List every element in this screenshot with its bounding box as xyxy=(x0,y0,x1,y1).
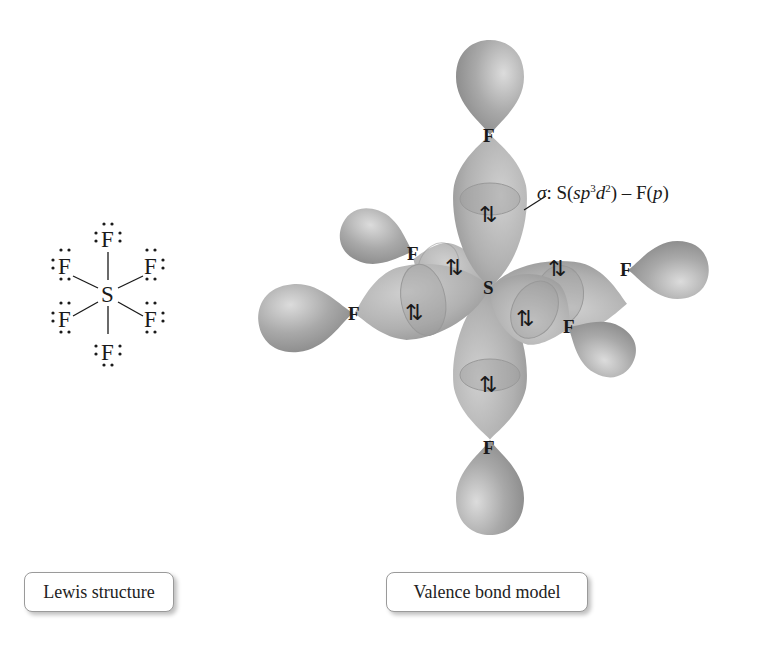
lewis-fluorine-lower-right: F xyxy=(144,307,157,332)
lewis-fluorine-lower-left: F xyxy=(58,307,71,332)
electron-pair-bottom: ⇅ xyxy=(479,372,497,397)
lewis-structure: S F F F F F F xyxy=(40,210,180,370)
valence-bond-caption: Valence bond model xyxy=(386,572,588,612)
vb-fluorine-top: F xyxy=(483,125,495,146)
f-lone-lobe-top xyxy=(456,40,524,135)
f-lone-lobe-left xyxy=(255,279,356,355)
valence-bond-model: ⇅ ⇅ ⇅ ⇅ ⇅ ⇅ S F F F F F F xyxy=(250,20,750,560)
f-lone-lobe-right xyxy=(628,241,709,299)
lewis-fluorine-bottom: F xyxy=(101,340,114,365)
sigma-bond-annotation: σ: S(sp3d2) – F(p) xyxy=(537,182,669,204)
vb-fluorine-upper-left: F xyxy=(407,243,419,264)
lewis-fluorine-top: F xyxy=(101,227,114,252)
vb-fluorine-right: F xyxy=(620,259,632,280)
valence-bond-drawing: ⇅ ⇅ ⇅ ⇅ ⇅ ⇅ S F F F F F F xyxy=(250,20,750,560)
lewis-fluorine-upper-left: F xyxy=(58,254,71,279)
vb-fluorine-left: F xyxy=(348,303,360,324)
vb-fluorine-bottom: F xyxy=(483,437,495,458)
electron-pair-lower-right: ⇅ xyxy=(516,306,534,331)
electron-pair-upper-left: ⇅ xyxy=(445,255,463,280)
lewis-fluorine-upper-right: F xyxy=(144,254,157,279)
vb-fluorine-lower-right: F xyxy=(563,316,575,337)
vb-sulfur-atom: S xyxy=(483,277,494,298)
lewis-structure-caption: Lewis structure xyxy=(24,572,174,612)
electron-pair-top: ⇅ xyxy=(479,202,497,227)
electron-pair-right: ⇅ xyxy=(548,256,566,281)
electron-pair-left: ⇅ xyxy=(405,300,423,325)
lewis-structure-drawing: S F F F F F F xyxy=(40,210,180,370)
lewis-sulfur-atom: S xyxy=(101,282,114,307)
